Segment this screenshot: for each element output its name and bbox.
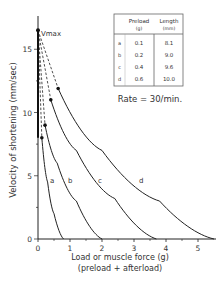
y-tick-label: 0 — [27, 235, 32, 244]
table-cell-preload: 0.2 — [135, 52, 144, 58]
x-tick-label: 0 — [36, 244, 41, 253]
data-point-d — [56, 87, 60, 91]
curve-label-b: b — [68, 177, 73, 185]
x-tick-label: 1 — [68, 244, 73, 253]
table-header-preload: Preload — [129, 18, 150, 24]
table-cell-length: 9.0 — [165, 52, 174, 58]
vmax-label: Vmax — [41, 30, 61, 38]
table-cell-length: 10.0 — [163, 76, 176, 82]
table-cell-preload: 0.4 — [135, 64, 144, 70]
table-header-length: Length — [160, 18, 179, 25]
x-axis-label: Load or muscle force (g) — [71, 253, 169, 262]
y-axis-label: Velocity of shortening (mm/sec) — [8, 62, 18, 198]
curve-a: a — [38, 30, 64, 239]
data-point-b — [43, 123, 47, 127]
data-point-a — [40, 136, 44, 140]
curve-label-a: a — [50, 177, 54, 185]
x-tick-label: 2 — [100, 244, 105, 253]
curve-c: c — [38, 30, 156, 239]
table-cell-preload: 0.1 — [135, 40, 144, 46]
x-axis-sublabel: (preload + afterload) — [78, 264, 162, 273]
table-unit-preload: (g) — [136, 26, 143, 31]
x-tick-label: 4 — [164, 244, 169, 253]
table-row-label: c — [118, 64, 121, 70]
preload-length-table: Preload Length (g) (mm) a0.18.1b0.29.0c0… — [114, 14, 183, 86]
y-tick-label: 10 — [22, 109, 32, 118]
curve-label-c: c — [98, 177, 102, 185]
force-velocity-chart: 012345051015 abcd Vmax Velocity of short… — [0, 0, 224, 291]
table-cell-length: 8.1 — [165, 40, 174, 46]
curve-label-d: d — [139, 177, 143, 185]
y-tick-label: 15 — [22, 45, 32, 54]
curve-b: b — [38, 30, 102, 239]
x-tick-label: 3 — [132, 244, 137, 253]
table-row-label: a — [118, 40, 121, 46]
rate-label: Rate = 30/min. — [118, 94, 182, 104]
x-tick-label: 5 — [196, 244, 201, 253]
table-row-label: b — [118, 52, 121, 58]
table-unit-length: (mm) — [163, 26, 176, 31]
table-row-label: d — [118, 76, 121, 82]
table-cell-preload: 0.6 — [135, 76, 144, 82]
vmax-point — [36, 28, 40, 32]
y-tick-label: 5 — [27, 172, 32, 181]
data-point-c — [49, 98, 53, 102]
table-cell-length: 9.6 — [165, 64, 174, 70]
